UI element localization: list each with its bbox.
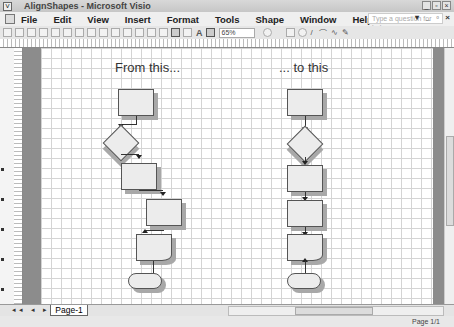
horizontal-ruler [0, 39, 454, 48]
new-icon[interactable] [3, 28, 12, 37]
vertical-scroll-thumb[interactable] [446, 136, 454, 226]
arrowhead [160, 192, 166, 196]
document-icon[interactable] [5, 14, 15, 24]
terminator-shape[interactable] [128, 273, 162, 289]
print-preview-icon[interactable] [63, 28, 72, 37]
menu-bar: File Edit View Insert Format Tools Shape… [0, 12, 454, 26]
connector [136, 116, 137, 124]
terminator-shape[interactable] [287, 273, 321, 289]
undo-icon[interactable] [135, 28, 144, 37]
document-window-controls[interactable]: ▾ _ ▫ × [415, 13, 452, 22]
drawing-canvas[interactable]: From this... ... to this [41, 48, 433, 304]
menu-tools[interactable]: Tools [215, 14, 240, 25]
menu-insert[interactable]: Insert [125, 14, 151, 25]
connector [146, 230, 164, 231]
page-indicator: Page 1/1 [412, 318, 440, 325]
vertical-ruler [14, 48, 23, 304]
arrowhead [136, 155, 142, 159]
menu-window[interactable]: Window [300, 14, 336, 25]
spelling-icon[interactable] [75, 28, 84, 37]
pasteboard-left [23, 48, 41, 304]
save-icon[interactable] [27, 28, 36, 37]
decision-shape[interactable] [103, 125, 140, 162]
process-shape[interactable] [121, 163, 157, 190]
process-shape[interactable] [287, 165, 323, 192]
freeform-tool-icon[interactable]: ∿ [331, 28, 338, 37]
delete-icon[interactable] [123, 28, 132, 37]
process-shape[interactable] [287, 200, 323, 227]
arc-tool-icon[interactable]: ⌒ [319, 27, 327, 38]
shapes-icon[interactable] [159, 28, 168, 37]
help-icon[interactable] [263, 28, 272, 37]
visio-app-icon[interactable]: V [3, 2, 12, 11]
menu-file[interactable]: File [21, 14, 37, 25]
window-controls: _ ▫ × [422, 1, 451, 10]
pasteboard-right [433, 48, 444, 304]
process-shape[interactable] [287, 89, 323, 116]
connector [139, 190, 163, 191]
process-shape[interactable] [146, 199, 182, 226]
left-edge-strip [0, 48, 14, 327]
status-bar: Page 1/1 [0, 316, 454, 327]
cut-icon[interactable] [87, 28, 96, 37]
text-tool-icon[interactable]: A [196, 28, 203, 38]
connector [153, 261, 154, 273]
connector [305, 261, 306, 273]
zoom-select[interactable]: 65% [219, 28, 255, 38]
title-bar: V AlignShapes - Microsoft Visio _ ▫ × [0, 0, 454, 12]
ellipse-tool-icon[interactable] [298, 28, 307, 37]
copy-icon[interactable] [99, 28, 108, 37]
standard-toolbar: A 65% / ⌒ ∿ ✎ [0, 26, 454, 39]
page-tab-bar: ◂◂ ◂ ▸ ▸▸ Page-1 [0, 304, 454, 316]
caption-after: ... to this [279, 60, 328, 75]
horizontal-scrollbar[interactable] [228, 306, 444, 316]
horizontal-scroll-thumb[interactable] [295, 307, 373, 315]
document-shape[interactable] [136, 234, 172, 261]
arrowhead [142, 229, 148, 233]
print-icon[interactable] [51, 28, 60, 37]
process-shape[interactable] [118, 89, 154, 116]
restore-button[interactable]: ▫ [432, 1, 441, 10]
caption-before: From this... [115, 60, 180, 75]
close-button[interactable]: × [442, 1, 451, 10]
vertical-scrollbar[interactable] [444, 48, 454, 304]
connector-tool-icon[interactable] [183, 28, 192, 37]
menu-edit[interactable]: Edit [53, 14, 71, 25]
permission-icon[interactable] [39, 28, 48, 37]
paste-icon[interactable] [111, 28, 120, 37]
page-tab[interactable]: Page-1 [50, 305, 88, 316]
minimize-button[interactable]: _ [422, 1, 431, 10]
pencil-tool-icon[interactable]: ✎ [342, 28, 349, 37]
menu-format[interactable]: Format [167, 14, 199, 25]
pan-zoom-icon[interactable] [206, 28, 215, 37]
document-shape[interactable] [287, 234, 323, 261]
rectangle-tool-icon[interactable] [286, 28, 295, 37]
menu-view[interactable]: View [87, 14, 108, 25]
menu-shape[interactable]: Shape [256, 14, 285, 25]
line-tool-icon[interactable]: / [311, 28, 313, 37]
window-title: AlignShapes - Microsoft Visio [24, 1, 151, 11]
open-icon[interactable] [15, 28, 24, 37]
redo-icon[interactable] [147, 28, 156, 37]
pointer-tool-icon[interactable] [171, 28, 180, 37]
